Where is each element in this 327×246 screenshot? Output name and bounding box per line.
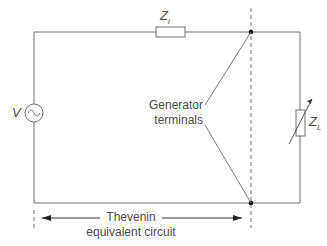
terminals-label-line1: Generator (149, 98, 203, 113)
pointer-line-top (205, 32, 251, 105)
ac-source-icon (25, 104, 43, 122)
terminals-label-line2: terminals (149, 113, 203, 128)
load-impedance-label: ZL (309, 114, 321, 132)
thevenin-label-line1: Thevenin (91, 210, 171, 224)
generator-terminals-label: Generator terminals (149, 98, 203, 128)
source-label: V (12, 105, 21, 120)
thevenin-label-line2: equivalent circuit (76, 225, 186, 239)
internal-impedance-label: Zi (160, 8, 170, 26)
internal-impedance-resistor-icon (156, 27, 185, 37)
pointer-line-bottom (205, 125, 251, 203)
